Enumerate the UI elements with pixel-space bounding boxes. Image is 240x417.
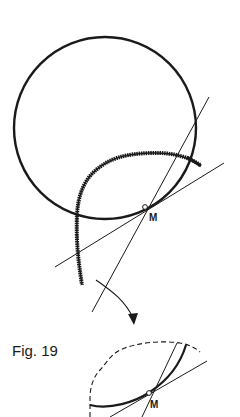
- curved-arrow: [96, 280, 133, 318]
- point-m-top: [143, 205, 148, 210]
- inset-tangent-line: [110, 361, 207, 417]
- figure-caption: Fig. 19: [12, 342, 58, 359]
- point-m-bottom: [147, 391, 152, 396]
- point-label-m-top: M: [149, 212, 157, 223]
- arrow-head-icon: [128, 313, 138, 325]
- point-label-m-bottom: M: [150, 399, 158, 410]
- main-circle: [14, 37, 196, 219]
- secant-line: [92, 97, 209, 312]
- inset-secant-line: [142, 343, 177, 417]
